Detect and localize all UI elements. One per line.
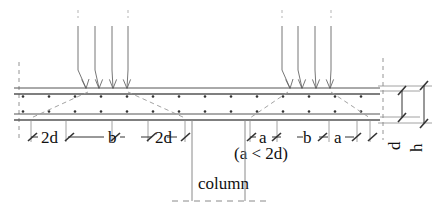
load-arrow [326, 26, 333, 89]
load-arrow [95, 26, 103, 89]
rebar-dots-top [22, 95, 363, 98]
structural-diagram: 2d b 2d a b a (a < 2d [0, 0, 440, 211]
load-arrows-right [282, 10, 334, 89]
dimension-label-right-b: b [303, 128, 312, 147]
column-label: column [198, 174, 249, 193]
dimension-label-left-b: b [108, 128, 117, 147]
note-a-less-than-2d: (a < 2d) [234, 144, 288, 163]
dimension-label-left-2d-second: 2d [155, 128, 173, 147]
dimension-label-d: d [385, 141, 404, 150]
bottom-reinforcement-band [14, 110, 380, 120]
dimension-h [420, 81, 428, 128]
vertical-dimensions: d h [378, 81, 432, 152]
dimension-label-left-2d-first: 2d [41, 128, 59, 147]
dimension-label-h: h [407, 143, 426, 152]
dimension-extension-lines [31, 120, 370, 142]
diagram-canvas: 2d b 2d a b a (a < 2d [0, 0, 440, 211]
load-arrow [78, 26, 89, 89]
rebar-dots-bottom [22, 110, 363, 113]
dimension-chain-left: 2d b 2d [28, 128, 190, 147]
load-arrow [109, 26, 116, 89]
load-arrow [123, 26, 130, 89]
load-arrow [312, 26, 319, 89]
load-arrows-left [78, 10, 131, 89]
dimension-label-right-a-second: a [334, 128, 342, 147]
top-reinforcement-band [14, 88, 380, 98]
load-arrow [282, 26, 293, 89]
load-arrow [298, 26, 306, 89]
